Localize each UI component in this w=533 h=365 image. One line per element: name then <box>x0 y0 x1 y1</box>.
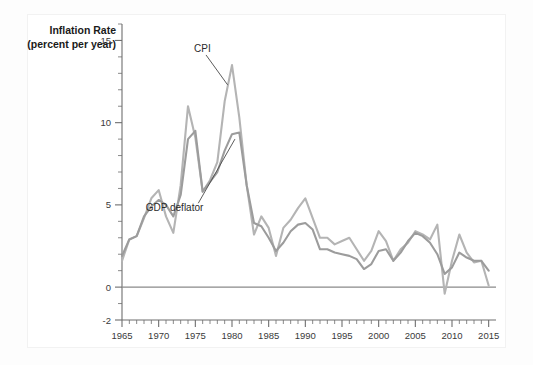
y-tick-label: -2 <box>103 315 111 326</box>
x-tick-label: 1975 <box>185 330 206 341</box>
y-tick-label: 10 <box>100 117 111 128</box>
x-tick-label: 1990 <box>295 330 316 341</box>
x-tick-label: 1985 <box>258 330 279 341</box>
y-tick-label: 15 <box>100 35 111 46</box>
x-tick-label: 2005 <box>405 330 426 341</box>
x-tick-label: 2015 <box>478 330 499 341</box>
cpi-leader-line <box>206 55 228 85</box>
series-line-cpi <box>122 65 489 294</box>
x-tick-label: 1980 <box>221 330 242 341</box>
figure-container: Inflation Rate (percent per year) 151050… <box>0 0 533 365</box>
x-tick-label: 1995 <box>331 330 352 341</box>
x-tick-label: 2000 <box>368 330 389 341</box>
annotation-gdp-deflator: GDP deflator <box>146 202 204 213</box>
series-group <box>122 65 489 294</box>
y-tick-label: 5 <box>106 199 111 210</box>
inflation-rate-line-chart: Inflation Rate (percent per year) 151050… <box>0 0 533 365</box>
x-axis-ticks: 1965197019751980198519901995200020052010… <box>111 320 499 341</box>
x-tick-label: 2010 <box>441 330 462 341</box>
x-tick-label: 1970 <box>148 330 169 341</box>
gdp-deflator-leader-line <box>198 139 235 203</box>
y-axis-ticks: 151050-2 <box>100 24 122 326</box>
x-tick-label: 1965 <box>111 330 132 341</box>
annotation-cpi: CPI <box>194 43 211 54</box>
y-tick-label: 0 <box>106 282 111 293</box>
